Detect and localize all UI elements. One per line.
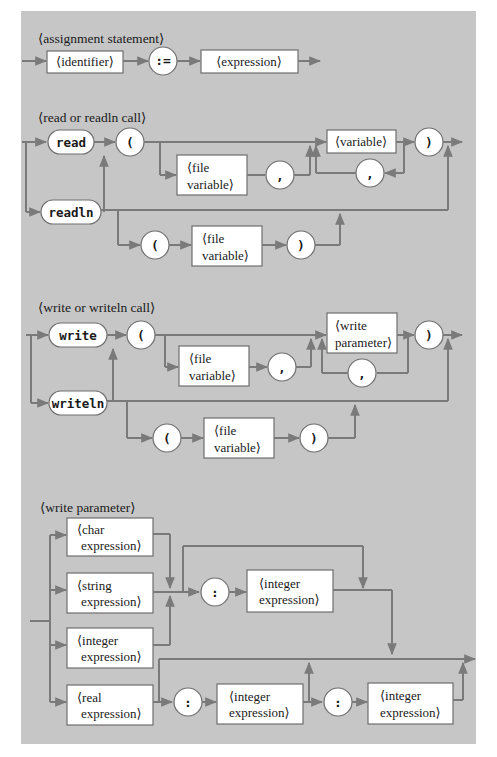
colon-label: : — [334, 695, 342, 710]
expression-label: ⟨expression⟩ — [216, 54, 282, 69]
comma-label: , — [278, 360, 286, 375]
lparen-label: ( — [163, 431, 171, 446]
rparen-label: ) — [297, 238, 305, 253]
comma-label: , — [276, 168, 284, 183]
file-variable-label-2: variable⟩ — [187, 177, 234, 192]
integer-expression-label-1: ⟨integer — [259, 576, 301, 591]
rparen-label: ) — [310, 431, 318, 446]
read-keyword-label: read — [56, 135, 86, 150]
identifier-label: ⟨identifier⟩ — [56, 54, 114, 69]
lparen-label: ( — [151, 238, 159, 253]
string-expression-label-1: ⟨string — [77, 578, 112, 593]
assignment-statement-diagram: ⟨assignment statement⟩ ⟨identifier⟩ := ⟨… — [22, 31, 320, 75]
rparen-label: ) — [425, 135, 433, 150]
file-variable-label-2: variable⟩ — [202, 248, 249, 263]
write-parameter-label-2: parameter⟩ — [335, 335, 392, 350]
integer-expression-label-1: ⟨integer — [229, 689, 271, 704]
char-expression-label-1: ⟨char — [77, 522, 105, 537]
file-variable-label-2: variable⟩ — [214, 440, 261, 455]
assignment-title: ⟨assignment statement⟩ — [38, 31, 164, 46]
file-variable-label-1: ⟨file — [187, 160, 210, 175]
lparen-label: ( — [137, 328, 145, 343]
integer-expression-label-2: expression⟩ — [380, 705, 441, 720]
write-title: ⟨write or writeln call⟩ — [38, 300, 155, 315]
write-call-diagram: ⟨write or writeln call⟩ write writeln ( … — [26, 300, 462, 458]
readln-keyword-label: readln — [48, 205, 93, 220]
assign-operator-label: := — [155, 53, 171, 68]
write-parameter-diagram: ⟨write parameter⟩ ⟨char expression⟩ ⟨str… — [30, 500, 475, 725]
variable-label: ⟨variable⟩ — [335, 134, 387, 149]
colon-label: : — [211, 585, 219, 600]
write-parameter-label-1: ⟨write — [335, 318, 367, 333]
colon-label: : — [184, 695, 192, 710]
lparen-label: ( — [126, 135, 134, 150]
write-parameter-title: ⟨write parameter⟩ — [40, 500, 136, 515]
file-variable-label-1: ⟨file — [202, 231, 225, 246]
integer-expression-label-1: ⟨integer — [380, 688, 422, 703]
integer-expression-label-2: expression⟩ — [81, 649, 142, 664]
comma-label: , — [366, 166, 374, 181]
file-variable-label-1: ⟨file — [214, 423, 237, 438]
file-variable-label-2: variable⟩ — [189, 368, 236, 383]
writeln-keyword-label: writeln — [52, 396, 105, 411]
file-variable-label-1: ⟨file — [189, 351, 212, 366]
integer-expression-label-1: ⟨integer — [77, 633, 119, 648]
comma-label: , — [358, 366, 366, 381]
read-call-diagram: ⟨read or readln call⟩ read readln ( ⟨fil… — [22, 110, 462, 266]
syntax-diagrams: ⟨assignment statement⟩ ⟨identifier⟩ := ⟨… — [0, 0, 497, 757]
read-title: ⟨read or readln call⟩ — [38, 110, 146, 125]
real-expression-label-1: ⟨real — [77, 690, 102, 705]
string-expression-label-2: expression⟩ — [81, 594, 142, 609]
integer-expression-label-2: expression⟩ — [259, 592, 320, 607]
char-expression-label-2: expression⟩ — [81, 538, 142, 553]
write-keyword-label: write — [59, 328, 97, 343]
real-expression-label-2: expression⟩ — [81, 706, 142, 721]
rparen-label: ) — [425, 328, 433, 343]
integer-expression-label-2: expression⟩ — [229, 705, 290, 720]
